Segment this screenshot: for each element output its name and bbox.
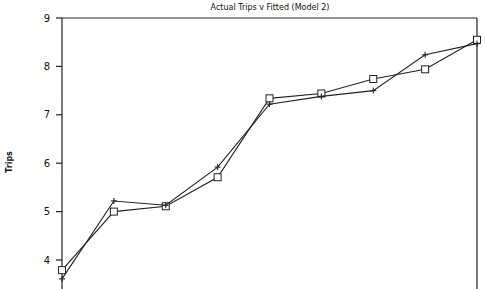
series-layer (59, 36, 481, 282)
series-line (62, 44, 477, 279)
chart-title: Actual Trips v Fitted (Model 2) (211, 3, 330, 12)
y-tick-label: 7 (44, 109, 50, 120)
series-fitted (59, 41, 480, 282)
y-ticks: 456789 (44, 13, 62, 266)
data-point-square (110, 208, 117, 215)
chart: Actual Trips v Fitted (Model 2) Trips 45… (0, 0, 485, 289)
data-point-plus (111, 198, 117, 204)
y-tick-label: 5 (44, 206, 50, 217)
data-point-square (422, 66, 429, 73)
y-tick-label: 4 (44, 255, 50, 266)
data-point-square (370, 75, 377, 82)
y-tick-label: 8 (44, 61, 50, 72)
series-line (62, 40, 477, 270)
y-tick-label: 6 (44, 158, 50, 169)
data-point-square (214, 174, 221, 181)
y-tick-label: 9 (44, 13, 50, 24)
data-point-plus (59, 276, 65, 282)
series-actual (59, 36, 481, 273)
y-axis-label: Trips (5, 151, 14, 173)
data-point-square (59, 267, 66, 274)
data-point-square (266, 95, 273, 102)
axes (62, 18, 477, 289)
